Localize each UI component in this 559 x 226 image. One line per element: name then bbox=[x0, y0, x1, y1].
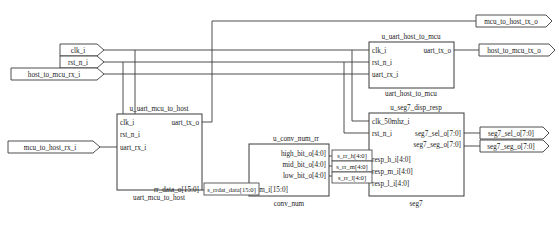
block-seg7-instance: u_seg7_disp_resp bbox=[390, 104, 442, 112]
mcu-to-host-rx-i-port-label: mcu_to_host_rx_i bbox=[24, 144, 76, 152]
block-conv-num-module: conv_num bbox=[274, 200, 305, 208]
clk-i-port[interactable]: clk_i bbox=[60, 44, 104, 56]
block-seg7-module: seg7 bbox=[409, 200, 423, 208]
pin-seg7-resp-h-i: resp_h_i[4:0] bbox=[372, 156, 411, 164]
block-conv-num[interactable]: u_conv_num_rr high_bit_o[4:0] mid_bit_o[… bbox=[249, 135, 329, 208]
pin-seg7-rst-n-i: rst_n_i bbox=[372, 130, 392, 138]
block-seg7[interactable]: u_seg7_disp_resp clk_50mhz_i rst_n_i res… bbox=[369, 104, 464, 208]
mcu-to-host-tx-o-port[interactable]: mcu_to_host_tx_o bbox=[476, 15, 552, 27]
block-uart-mcu-to-host[interactable]: u_uart_mcu_to_host clk_i rst_n_i uart_rx… bbox=[117, 105, 202, 202]
block-uart-host-to-mcu-instance: u_uart_host_to_mcu bbox=[381, 33, 440, 41]
block-uart-mcu-to-host-instance: u_uart_mcu_to_host bbox=[129, 105, 188, 113]
clk-i-port-label: clk_i bbox=[71, 47, 85, 55]
net-s-rr-m[interactable]: s_rr_m[4:0] bbox=[332, 161, 372, 172]
pin-seg7-clk-50mhz-i: clk_50mhz_i bbox=[372, 118, 410, 126]
net-s-rrdat-data[interactable]: s_rrdat_data[15:0] bbox=[204, 183, 259, 195]
pin-uart-host-to-mcu-uart-tx-o: uart_tx_o bbox=[423, 47, 451, 55]
mcu-to-host-rx-i-port[interactable]: mcu_to_host_rx_i bbox=[8, 141, 100, 153]
schematic-diagram: clk_i rst_n_i host_to_mcu_rx_i mcu_to_ho… bbox=[0, 0, 559, 226]
pin-uart-mcu-to-host-clk-i: clk_i bbox=[120, 119, 134, 127]
pin-conv-num-low-bit-o: low_bit_o[4:0] bbox=[283, 172, 326, 180]
output-ports: mcu_to_host_tx_o host_to_mcu_tx_o seg7_s… bbox=[476, 15, 555, 152]
pin-seg7-sel-o: seg7_sel_o[7:0] bbox=[415, 130, 461, 138]
rst-n-i-port-label: rst_n_i bbox=[68, 59, 88, 67]
net-s-rr-l[interactable]: s_rr_l[4:0] bbox=[332, 172, 372, 183]
pin-uart-mcu-to-host-rst-n-i: rst_n_i bbox=[120, 131, 140, 139]
block-uart-mcu-to-host-module: uart_mcu_to_host bbox=[133, 194, 185, 202]
pin-uart-mcu-to-host-uart-rx-i: uart_rx_i bbox=[120, 144, 146, 152]
pin-seg7-resp-m-i: resp_m_i[4:0] bbox=[372, 168, 413, 176]
mcu-to-host-tx-o-port-label: mcu_to_host_tx_o bbox=[484, 18, 538, 26]
host-to-mcu-tx-o-port[interactable]: host_to_mcu_tx_o bbox=[479, 44, 555, 56]
pin-uart-host-to-mcu-rst-n-i: rst_n_i bbox=[372, 59, 392, 67]
pin-uart-host-to-mcu-clk-i: clk_i bbox=[372, 47, 386, 55]
pin-conv-num-mid-bit-o: mid_bit_o[4:0] bbox=[282, 161, 326, 169]
input-ports: clk_i rst_n_i host_to_mcu_rx_i mcu_to_ho… bbox=[8, 44, 104, 153]
pin-uart-mcu-to-host-uart-tx-o: uart_tx_o bbox=[171, 119, 199, 127]
seg7-seg-o-port[interactable]: seg7_seg_o[7:0] bbox=[480, 140, 549, 152]
net-s-rr-h-label: s_rr_h[4:0] bbox=[337, 152, 367, 160]
host-to-mcu-rx-i-port[interactable]: host_to_mcu_rx_i bbox=[11, 68, 104, 80]
block-conv-num-instance: u_conv_num_rr bbox=[273, 135, 320, 143]
net-s-rr-m-label: s_rr_m[4:0] bbox=[336, 163, 368, 171]
pin-conv-num-high-bit-o: high_bit_o[4:0] bbox=[281, 150, 326, 158]
host-to-mcu-tx-o-port-label: host_to_mcu_tx_o bbox=[487, 47, 541, 55]
block-uart-host-to-mcu-module: uart_host_to_mcu bbox=[385, 90, 437, 98]
pin-seg7-resp-l-i: resp_l_i[4:0] bbox=[372, 180, 409, 188]
seg7-seg-o-port-label: seg7_seg_o[7:0] bbox=[487, 143, 535, 151]
pin-uart-mcu-to-host-rr-data-o: rr_data_o[15:0] bbox=[154, 186, 199, 194]
host-to-mcu-rx-i-port-label: host_to_mcu_rx_i bbox=[28, 71, 80, 79]
wire-clk-i-branch-seg7 bbox=[352, 50, 369, 121]
block-uart-host-to-mcu[interactable]: u_uart_host_to_mcu clk_i rst_n_i uart_rx… bbox=[369, 33, 454, 98]
net-s-rrdat-data-label: s_rrdat_data[15:0] bbox=[207, 186, 256, 194]
pin-uart-host-to-mcu-uart-rx-i: uart_rx_i bbox=[372, 71, 398, 79]
net-s-rr-l-label: s_rr_l[4:0] bbox=[338, 174, 366, 182]
rst-n-i-port[interactable]: rst_n_i bbox=[60, 56, 104, 68]
wire-rst-n-i-branch-seg7 bbox=[344, 62, 369, 133]
pin-seg7-seg-o: seg7_seg_o[7:0] bbox=[413, 141, 461, 149]
seg7-sel-o-port[interactable]: seg7_sel_o[7:0] bbox=[480, 127, 549, 139]
net-s-rr-h[interactable]: s_rr_h[4:0] bbox=[332, 150, 372, 161]
seg7-sel-o-port-label: seg7_sel_o[7:0] bbox=[488, 130, 534, 138]
